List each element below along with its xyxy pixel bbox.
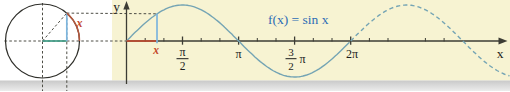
half-pi-numerator: π — [179, 45, 185, 59]
dashed-radius-line — [43, 13, 67, 41]
half-pi-denominator: 2 — [180, 60, 186, 72]
bottom-strip — [0, 81, 510, 92]
circle-angle-label: x — [76, 16, 83, 30]
y-axis-label: y — [113, 0, 120, 14]
tick-label-pi: π — [236, 47, 242, 61]
tick-label-two-pi: 2π — [346, 47, 358, 61]
figure-canvas: x y x x π 2 π 3 2 π 2π — [0, 0, 510, 91]
sine-function-figure: x y x x π 2 π 3 2 π 2π — [0, 0, 510, 91]
graph-arc-label: x — [152, 44, 159, 56]
three-halves-denominator: 2 — [288, 60, 294, 72]
three-halves-numerator: 3 — [288, 46, 294, 58]
function-label: f(x) = sin x — [268, 12, 329, 27]
x-axis-label: x — [497, 46, 504, 61]
three-halves-pi-symbol: π — [299, 52, 305, 66]
